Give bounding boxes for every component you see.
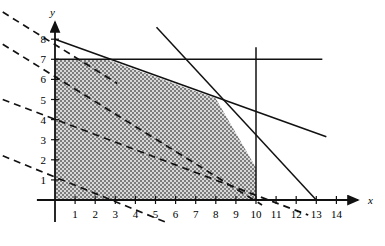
y-tick-label-7: 7 xyxy=(41,53,47,65)
y-tick-label-1: 1 xyxy=(41,174,47,186)
y-tick-label-8: 8 xyxy=(41,33,47,45)
x-tick-label-10: 10 xyxy=(251,208,263,220)
x-tick-label-12: 12 xyxy=(291,208,302,220)
y-tick-label-4: 4 xyxy=(41,114,47,126)
y-tick-label-3: 3 xyxy=(41,134,47,146)
feasible-region-fill xyxy=(55,59,256,200)
x-tick-label-1: 1 xyxy=(72,208,78,220)
chart-canvas: 123456789101112131412345678 x y xyxy=(0,0,385,246)
x-tick-label-3: 3 xyxy=(113,208,119,220)
x-tick-label-7: 7 xyxy=(193,208,199,220)
x-tick-label-5: 5 xyxy=(153,208,159,220)
x-tick-label-9: 9 xyxy=(233,208,239,220)
y-tick-label-2: 2 xyxy=(41,154,47,166)
x-tick-label-11: 11 xyxy=(271,208,282,220)
linear-programming-graph: 123456789101112131412345678 x y xyxy=(0,0,385,246)
x-axis-label: x xyxy=(367,194,373,206)
feasible-region xyxy=(55,59,256,200)
y-tick-label-5: 5 xyxy=(41,94,47,106)
x-tick-label-6: 6 xyxy=(173,208,179,220)
x-tick-label-2: 2 xyxy=(92,208,98,220)
y-tick-label-6: 6 xyxy=(41,73,47,85)
x-tick-label-4: 4 xyxy=(133,208,139,220)
x-tick-label-14: 14 xyxy=(331,208,343,220)
y-axis-label: y xyxy=(49,6,55,18)
x-tick-label-8: 8 xyxy=(213,208,219,220)
x-tick-label-13: 13 xyxy=(311,208,323,220)
